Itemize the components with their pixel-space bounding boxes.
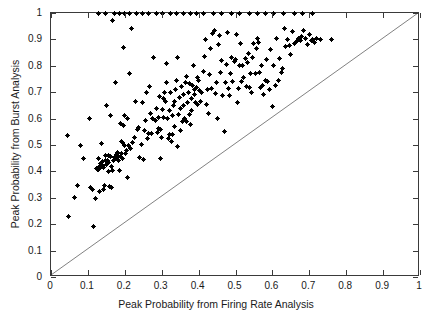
x-tick-label: 0.4	[178, 280, 218, 291]
scatter-point	[301, 28, 306, 33]
scatter-point	[256, 40, 261, 45]
scatter-point	[243, 56, 248, 61]
scatter-point	[109, 185, 114, 190]
scatter-point	[248, 71, 253, 76]
x-tick-mark-top	[272, 13, 273, 18]
scatter-point	[96, 11, 101, 16]
scatter-point	[104, 103, 109, 108]
scatter-point	[251, 41, 256, 46]
scatter-point	[66, 214, 71, 219]
scatter-point	[121, 123, 126, 128]
scatter-point	[204, 102, 209, 107]
scatter-point	[156, 115, 161, 120]
scatter-point	[282, 26, 287, 31]
x-tick-mark	[162, 270, 163, 275]
scatter-point	[219, 11, 224, 16]
scatter-point	[90, 187, 95, 192]
scatter-point	[139, 142, 144, 147]
scatter-point	[117, 11, 122, 16]
y-tick-label: 0.3	[10, 192, 42, 203]
y-tick-mark-right	[413, 39, 418, 40]
scatter-point	[191, 63, 196, 68]
x-tick-label: 0.1	[67, 280, 107, 291]
scatter-point	[100, 159, 105, 164]
scatter-point	[95, 167, 100, 172]
scatter-point	[255, 11, 260, 16]
scatter-point	[232, 59, 237, 64]
scatter-point	[270, 104, 275, 109]
x-tick-mark	[88, 270, 89, 275]
scatter-point	[195, 102, 200, 107]
scatter-point	[157, 94, 162, 99]
scatter-point	[207, 72, 212, 77]
scatter-point	[130, 140, 135, 145]
scatter-point	[128, 146, 133, 151]
scatter-point	[174, 11, 179, 16]
scatter-point	[93, 196, 98, 201]
x-tick-mark-top	[309, 13, 310, 18]
scatter-point	[113, 156, 118, 161]
y-tick-mark-right	[413, 277, 418, 278]
x-tick-mark-top	[125, 13, 126, 18]
scatter-point	[229, 11, 234, 16]
scatter-point	[116, 158, 121, 163]
scatter-point	[103, 153, 108, 158]
scatter-point	[156, 126, 161, 131]
x-tick-mark-top	[346, 13, 347, 18]
scatter-point	[329, 37, 334, 42]
scatter-point	[129, 26, 134, 31]
scatter-point	[173, 87, 178, 92]
scatter-point	[254, 46, 259, 51]
x-tick-label: 0.8	[325, 280, 365, 291]
scatter-point	[112, 155, 117, 160]
scatter-point	[110, 168, 115, 173]
scatter-point	[146, 131, 151, 136]
scatter-point	[287, 43, 292, 48]
x-tick-mark	[272, 270, 273, 275]
scatter-point	[314, 36, 319, 41]
scatter-point	[310, 37, 315, 42]
scatter-point	[163, 99, 168, 104]
scatter-point	[318, 37, 323, 42]
scatter-point	[118, 154, 123, 159]
scatter-point	[109, 164, 114, 169]
scatter-point	[144, 90, 149, 95]
scatter-point	[99, 162, 104, 167]
y-tick-mark	[51, 119, 56, 120]
scatter-point	[142, 128, 147, 133]
scatter-point	[257, 70, 262, 75]
scatter-point	[127, 11, 132, 16]
scatter-point	[136, 125, 141, 130]
y-tick-mark	[51, 66, 56, 67]
y-tick-mark	[51, 277, 56, 278]
scatter-point	[211, 11, 216, 16]
scatter-point	[158, 127, 163, 132]
scatter-point	[164, 80, 169, 85]
scatter-point	[259, 63, 264, 68]
scatter-point	[114, 152, 119, 157]
scatter-point	[81, 156, 86, 161]
scatter-point	[250, 55, 255, 60]
y-tick-mark-right	[413, 251, 418, 252]
scatter-point	[208, 46, 213, 51]
x-tick-mark	[309, 270, 310, 275]
scatter-point	[140, 100, 145, 105]
y-tick-mark	[51, 251, 56, 252]
scatter-point	[97, 164, 102, 169]
scatter-point	[101, 187, 106, 192]
scatter-point	[187, 81, 192, 86]
scatter-point	[101, 165, 106, 170]
scatter-point	[103, 158, 108, 163]
y-tick-label: 0.8	[10, 60, 42, 71]
scatter-point	[189, 108, 194, 113]
scatter-point	[188, 122, 193, 127]
scatter-point	[98, 161, 103, 166]
x-tick-label: 0.6	[251, 280, 291, 291]
scatter-point	[197, 88, 202, 93]
scatter-point	[184, 119, 189, 124]
scatter-point	[299, 34, 304, 39]
y-tick-label: 0.5	[10, 139, 42, 150]
scatter-point	[219, 58, 224, 63]
x-tick-label: 1	[399, 280, 432, 291]
x-tick-mark-top	[420, 13, 421, 18]
